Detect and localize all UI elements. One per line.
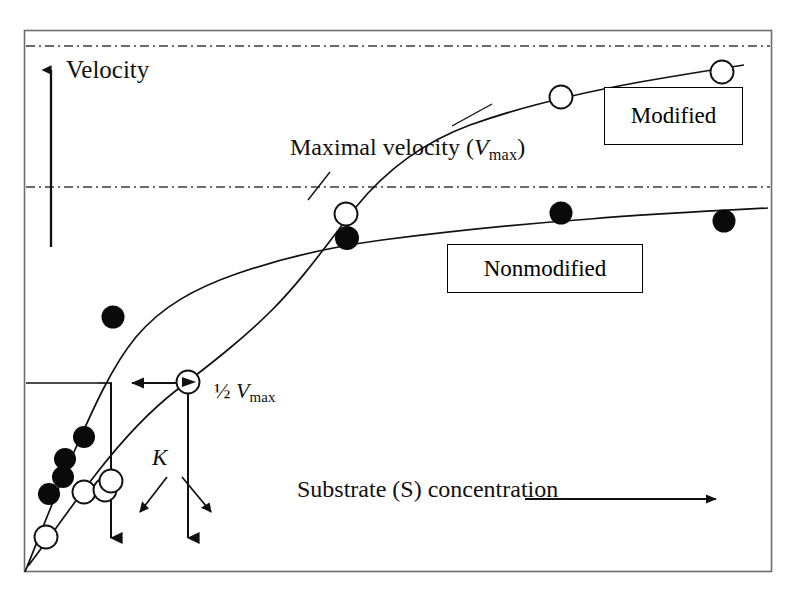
vmax-annotation-prefix: Maximal velocity ( [290, 134, 474, 160]
half-vmax-subscript: max [249, 389, 275, 405]
y-axis-label: Velocity [66, 56, 149, 84]
data-point-filled [38, 483, 60, 505]
data-point-open [35, 526, 58, 549]
km-label: K [152, 445, 167, 473]
data-point-filled [335, 226, 359, 250]
half-vmax-symbol: V [236, 378, 249, 403]
half-vmax-fraction: ½ [214, 378, 231, 403]
data-point-filled [102, 306, 125, 329]
legend-box-modified: Modified [604, 87, 743, 145]
data-point-open [73, 481, 96, 504]
half-vmax-label: ½ Vmax [214, 378, 276, 406]
data-point-filled [713, 210, 736, 233]
km-symbol: K [152, 445, 167, 470]
x-axis-label: Substrate (S) concentration [297, 476, 558, 503]
legend-box-nonmodified: Nonmodified [447, 244, 643, 293]
data-point-filled [73, 426, 95, 448]
vmax-annotation-symbol: V [474, 134, 489, 160]
data-point-open [550, 86, 573, 109]
figure-container: Velocity Substrate (S) concentration Max… [0, 0, 797, 599]
data-point-open [711, 61, 734, 84]
data-point-open [335, 203, 358, 226]
vmax-annotation: Maximal velocity (Vmax) [290, 134, 525, 165]
vmax-annotation-suffix: ) [517, 134, 525, 160]
data-point-open [100, 470, 123, 493]
vmax-annotation-subscript: max [489, 145, 518, 164]
legend-label-nonmodified: Nonmodified [484, 256, 607, 282]
x-axis-label-text: Substrate (S) concentration [297, 476, 558, 502]
legend-label-modified: Modified [631, 103, 717, 129]
data-point-filled [54, 448, 76, 470]
data-point-filled [550, 202, 573, 225]
